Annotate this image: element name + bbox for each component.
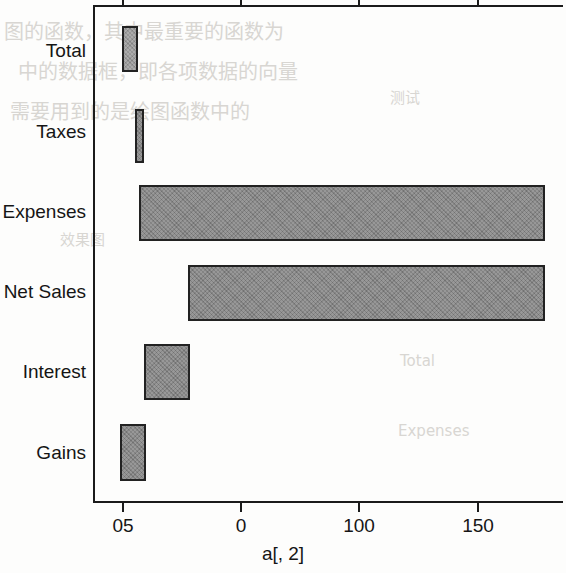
x-axis-tick-label-3: 100 — [343, 515, 375, 537]
x-axis-title: a[, 2] — [0, 543, 566, 565]
y-axis-label-expenses: Expenses — [3, 201, 86, 223]
bar-gains — [120, 424, 146, 481]
x-axis-tick-label-2: 0 — [236, 515, 247, 537]
y-axis-label-interest: Interest — [23, 361, 86, 383]
top-axis-tick-2 — [240, 0, 242, 6]
x-axis-tick-4 — [477, 503, 479, 512]
y-axis-labels: Total Taxes Expenses Net Sales Interest … — [0, 0, 86, 573]
x-axis-tick-2 — [240, 503, 242, 512]
top-axis-tick-4 — [477, 0, 479, 6]
x-axis-tick-3 — [358, 503, 360, 512]
plot-area — [93, 5, 566, 503]
y-axis-label-gains: Gains — [36, 442, 86, 464]
y-axis-label-net-sales: Net Sales — [4, 281, 86, 303]
bar-net-sales — [188, 265, 545, 321]
top-axis-tick-3 — [358, 0, 360, 6]
chart-page: 图的函数，其中最重要的函数为 中的数据框，即各项数据的向量 需要用到的是绘图函数… — [0, 0, 566, 573]
bar-taxes — [135, 109, 144, 163]
x-axis-tick-label-4: 150 — [462, 515, 494, 537]
x-axis-tick-label-1: 05 — [112, 515, 133, 537]
bar-expenses — [139, 185, 545, 241]
x-axis-tick-1 — [122, 503, 124, 512]
bar-total — [122, 26, 138, 72]
y-axis-label-total: Total — [46, 40, 86, 62]
bar-interest — [144, 344, 190, 400]
top-axis-tick-1 — [122, 0, 124, 6]
y-axis-label-taxes: Taxes — [36, 121, 86, 143]
